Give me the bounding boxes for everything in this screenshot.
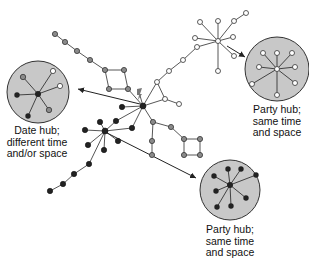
party-hub-bottom-circle	[200, 160, 260, 220]
party-hub-bottom-label-line-3: and space	[195, 247, 265, 259]
gray-nodes	[52, 31, 202, 157]
party-hub-top-circle	[245, 37, 309, 101]
date-hub-label-line-3: and/or space	[0, 148, 74, 160]
date-hub-label-line-1: Date hub;	[0, 125, 74, 137]
hub-diagram: Date hub; different time and/or space Pa…	[0, 0, 309, 260]
party-hub-bottom-label-line-1: Party hub;	[195, 224, 265, 236]
arrows	[78, 46, 245, 178]
party-hub-bottom-label: Party hub; same time and space	[195, 224, 265, 259]
party-hub-top-label-line-3: and space	[242, 127, 309, 139]
date-hub-circle	[7, 61, 69, 123]
party-hub-top-label-line-1: Party hub;	[242, 104, 309, 116]
date-hub-label: Date hub; different time and/or space	[0, 125, 74, 160]
white-nodes	[155, 11, 249, 107]
party-hub-top-label: Party hub; same time and space	[242, 104, 309, 139]
overlap-nodes-glyph	[137, 88, 142, 100]
